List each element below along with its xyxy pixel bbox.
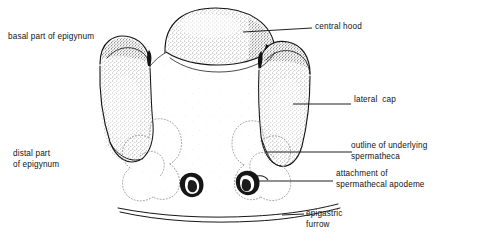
- label-central-hood: central hood: [315, 21, 362, 32]
- label-attachment-of-spermathecal-apodeme: attachment ofspermathecal apodeme: [336, 168, 425, 190]
- label-line-1: distal part: [13, 149, 50, 158]
- label-lateral-cap: lateral cap: [354, 94, 396, 105]
- label-line-2: of epigynum: [13, 160, 59, 169]
- lateral-cap-left: [96, 32, 158, 168]
- label-epigastric-furrow: epigastricfurrow: [306, 208, 343, 230]
- label-outline-of-underlying-spermatheca: outline of underlyingspermatheca: [351, 140, 427, 162]
- label-line-2: spermathecal apodeme: [336, 180, 425, 189]
- label-line-1: epigastric: [306, 209, 343, 218]
- label-line-2: furrow: [306, 220, 330, 229]
- label-basal-part-of-epigynum: basal part of epigynum: [8, 31, 94, 42]
- label-distal-part-of-epigynum: distal partof epigynum: [13, 148, 59, 170]
- label-line-1: outline of underlying: [351, 141, 427, 150]
- label-line-1: attachment of: [336, 169, 388, 178]
- label-line-2: spermatheca: [351, 152, 400, 161]
- figure-canvas: basal part of epigynum central hood late…: [0, 0, 479, 245]
- leader-epigastric-furrow: [282, 214, 304, 215]
